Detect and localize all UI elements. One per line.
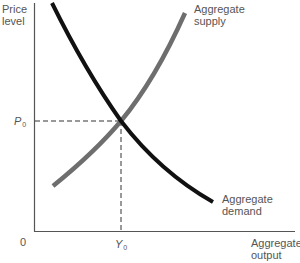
chart-plot bbox=[0, 0, 300, 263]
supply-label: Aggregate supply bbox=[194, 3, 245, 27]
y0-tick-label: Y0 bbox=[115, 238, 127, 254]
y-axis-label: Price level bbox=[2, 3, 27, 27]
p0-tick-label: P0 bbox=[14, 115, 26, 131]
demand-label: Aggregate demand bbox=[222, 193, 273, 217]
origin-label: 0 bbox=[20, 236, 26, 248]
x-axis-label: Aggregate output bbox=[251, 237, 300, 261]
